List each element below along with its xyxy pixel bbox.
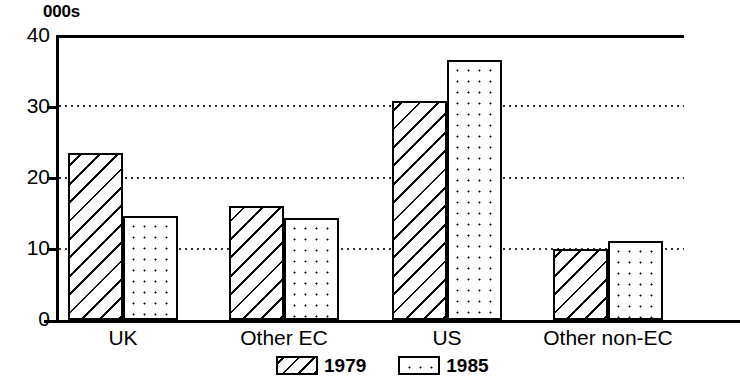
gridline-20 [59, 177, 684, 179]
bar-us-1985 [447, 60, 502, 320]
bar-other-ec-1979 [229, 206, 284, 320]
bar-other-non-ec-1985 [608, 241, 663, 320]
legend-label-1985: 1985 [446, 356, 488, 375]
bar-uk-1979 [68, 153, 123, 320]
legend-swatch-1979-icon [276, 356, 318, 375]
y-axis-unit-label: 000s [43, 3, 80, 21]
y-axis-tick-mark-20 [47, 177, 56, 180]
x-axis-line [44, 320, 740, 323]
bar-uk-1985 [123, 216, 178, 320]
plot-frame-top [56, 35, 684, 38]
y-axis-tick-label-30: 30 [10, 95, 50, 116]
y-axis-tick-mark-10 [47, 248, 56, 251]
gridline-30 [59, 105, 684, 107]
bar-other-ec-1985 [284, 218, 339, 320]
legend-item-1985: 1985 [398, 356, 488, 375]
legend-label-1979: 1979 [324, 356, 366, 375]
x-axis-label-us: US [432, 326, 461, 349]
x-axis-label-other-non-ec: Other non-EC [543, 326, 673, 349]
bar-us-1979 [392, 101, 447, 320]
y-axis-tick-mark-30 [47, 106, 56, 109]
legend-swatch-1985-icon [398, 356, 440, 375]
legend: 1979 1985 [276, 354, 489, 376]
x-axis-label-other-ec: Other EC [240, 326, 328, 349]
plot-area [56, 35, 684, 320]
y-axis-tick-label-40: 40 [10, 24, 50, 45]
bar-other-non-ec-1979 [553, 249, 608, 320]
y-axis-tick-label-20: 20 [10, 166, 50, 187]
y-axis-tick-label-10: 10 [10, 237, 50, 258]
x-axis-label-uk: UK [108, 326, 137, 349]
legend-item-1979: 1979 [276, 356, 366, 375]
y-axis-tick-label-0: 0 [10, 308, 50, 329]
